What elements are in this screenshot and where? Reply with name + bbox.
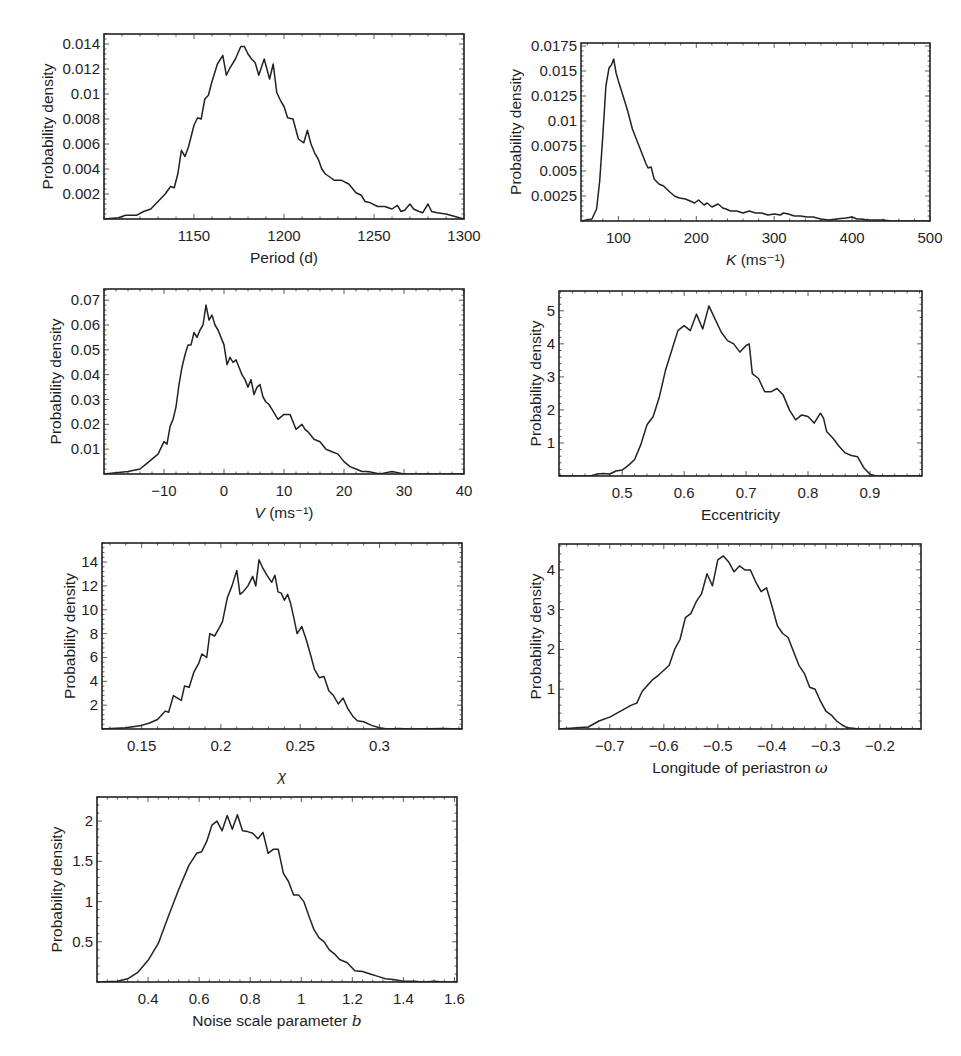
y-tick-label: 8 — [90, 625, 98, 642]
x-tick-label: 200 — [684, 229, 709, 246]
density-curve — [559, 556, 921, 729]
panel-eccentricity: 0.50.60.70.80.912345Probability densityE… — [527, 291, 922, 523]
y-tick-label: 12 — [81, 577, 98, 594]
y-tick-label: 0.01 — [548, 112, 577, 129]
x-tick-label: −0.4 — [757, 737, 787, 754]
panel-longitude-periastron: −0.7−0.6−0.5−0.4−0.3−0.21234Probability … — [527, 544, 921, 777]
x-axis-label: Noise scale parameter b — [192, 1012, 361, 1030]
x-tick-label: 1250 — [357, 227, 390, 244]
x-tick-label: 400 — [840, 229, 865, 246]
x-tick-label: 0.8 — [798, 484, 819, 501]
y-tick-label: 0.0025 — [531, 187, 577, 204]
y-axis-label: Probability density — [507, 69, 524, 195]
y-tick-label: 14 — [81, 553, 98, 570]
minor-ticks — [102, 543, 462, 729]
x-tick-label: 40 — [456, 482, 473, 499]
x-tick-label: −0.2 — [865, 737, 895, 754]
y-tick-label: 0.03 — [71, 391, 100, 408]
y-tick-label: 4 — [90, 672, 98, 689]
x-axis-label: K (ms⁻¹) — [726, 251, 785, 268]
figure: 11501200125013000.0020.0040.0060.0080.01… — [0, 0, 961, 1056]
plot-frame — [559, 544, 921, 729]
density-curve — [97, 815, 457, 982]
x-tick-label: 1300 — [447, 227, 480, 244]
plot-frame — [104, 34, 464, 219]
plot-frame — [104, 289, 464, 474]
x-tick-label: 0.15 — [127, 737, 156, 754]
plot-frame — [559, 291, 922, 476]
x-tick-label: 0.2 — [211, 737, 232, 754]
y-tick-label: 2 — [547, 640, 555, 657]
minor-ticks — [104, 34, 464, 219]
y-tick-label: 0.004 — [62, 160, 100, 177]
x-axis-label: Period (d) — [250, 249, 318, 266]
plot-frame — [102, 543, 462, 729]
x-tick-label: 0.5 — [612, 484, 633, 501]
x-tick-label: 0 — [220, 482, 228, 499]
x-tick-label: 1200 — [267, 227, 300, 244]
x-axis-label: χ — [276, 767, 287, 784]
x-axis-label: V (ms⁻¹) — [255, 504, 314, 521]
y-tick-label: 0.006 — [62, 135, 100, 152]
x-tick-label: −0.5 — [703, 737, 733, 754]
panel-k-semi-amplitude: 1002003004005000.00250.0050.00750.010.01… — [507, 37, 942, 268]
density-curve — [559, 306, 922, 476]
y-tick-label: 0.01 — [71, 85, 100, 102]
y-axis-label: Probability density — [61, 573, 78, 699]
y-tick-label: 0.5 — [72, 933, 93, 950]
minor-ticks — [559, 544, 921, 729]
x-axis-label: Eccentricity — [701, 506, 780, 523]
y-axis-label: Probability density — [39, 63, 56, 189]
y-tick-label: 0.0125 — [531, 87, 577, 104]
y-tick-label: 0.0075 — [531, 137, 577, 154]
x-tick-label: 0.9 — [860, 484, 881, 501]
y-tick-label: 2 — [90, 696, 98, 713]
y-tick-label: 0.02 — [71, 415, 100, 432]
density-curve — [104, 47, 464, 220]
y-tick-label: 4 — [547, 335, 555, 352]
y-tick-label: 1.5 — [72, 852, 93, 869]
y-tick-label: 0.04 — [71, 366, 100, 383]
x-tick-label: 0.4 — [138, 990, 159, 1007]
minor-ticks — [104, 289, 464, 474]
y-tick-label: 0.008 — [62, 110, 100, 127]
y-tick-label: 0.05 — [71, 341, 100, 358]
y-tick-label: 0.01 — [71, 440, 100, 457]
x-tick-label: 0.8 — [240, 990, 261, 1007]
density-curve — [102, 560, 462, 729]
x-tick-label: 1.2 — [342, 990, 363, 1007]
y-tick-label: 4 — [547, 561, 555, 578]
x-tick-label: 20 — [336, 482, 353, 499]
x-tick-label: 0.6 — [674, 484, 695, 501]
y-axis-label: Probability density — [47, 318, 64, 444]
y-tick-label: 0.002 — [62, 185, 100, 202]
panel-noise-scale-b: 0.40.60.811.21.41.60.511.52Probability d… — [48, 797, 465, 1030]
figure-canvas: 11501200125013000.0020.0040.0060.0080.01… — [0, 0, 961, 1056]
y-tick-label: 6 — [90, 648, 98, 665]
panel-period: 11501200125013000.0020.0040.0060.0080.01… — [39, 34, 481, 266]
panel-systemic-velocity: −100102030400.010.020.030.040.050.060.07… — [47, 289, 473, 521]
y-tick-label: 0.014 — [62, 35, 100, 52]
x-tick-label: 500 — [917, 229, 942, 246]
x-tick-label: −0.3 — [811, 737, 841, 754]
x-axis-label: Longitude of periastron ω — [652, 759, 828, 777]
x-tick-label: −0.7 — [595, 737, 625, 754]
y-tick-label: 3 — [547, 368, 555, 385]
y-tick-label: 0.005 — [539, 162, 577, 179]
x-tick-label: 30 — [396, 482, 413, 499]
y-axis-label: Probability density — [527, 320, 544, 446]
y-tick-label: 5 — [547, 302, 555, 319]
y-tick-label: 0.06 — [71, 316, 100, 333]
y-tick-label: 0.0175 — [531, 37, 577, 54]
y-tick-label: 10 — [81, 601, 98, 618]
x-tick-label: −10 — [151, 482, 176, 499]
y-tick-label: 0.07 — [71, 291, 100, 308]
y-tick-label: 2 — [547, 401, 555, 418]
x-tick-label: 0.7 — [736, 484, 757, 501]
x-tick-label: 0.3 — [369, 737, 390, 754]
y-tick-label: 0.015 — [539, 62, 577, 79]
x-tick-label: 1.6 — [444, 990, 465, 1007]
x-tick-label: 100 — [606, 229, 631, 246]
x-tick-label: −0.6 — [649, 737, 679, 754]
x-tick-label: 1150 — [178, 227, 210, 244]
